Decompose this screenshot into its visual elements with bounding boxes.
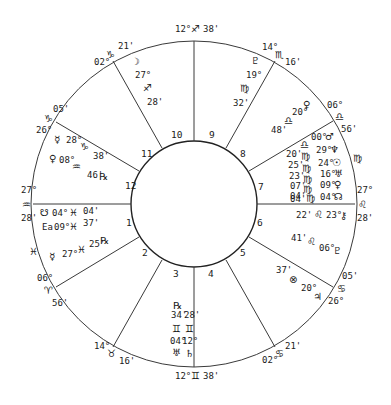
pluto-placement-h6: 41' ♌ 06° ♇: [291, 233, 342, 256]
intercepted-pisces-icon: ♓: [29, 246, 38, 257]
inner-circle: [131, 141, 257, 267]
cusp5-sign-icon: ♋: [275, 348, 284, 359]
pluto-icon: ♇: [333, 245, 342, 256]
dsc-sign-icon: ♌: [358, 199, 367, 210]
house-number-10: 10: [171, 129, 183, 140]
svg-text:19°: 19°: [246, 70, 262, 80]
svg-text:09°: 09°: [54, 222, 70, 232]
mc-minute: 38': [203, 24, 219, 34]
cusp5-line: [226, 260, 275, 347]
retrograde-icon: ℞: [99, 171, 108, 182]
south-node-icon: ☋: [40, 207, 49, 218]
svg-text:20°: 20°: [292, 107, 308, 117]
sagittarius-icon: ♐: [143, 82, 152, 93]
asc-minute: 28': [21, 213, 37, 223]
venus-icon: ♀: [334, 179, 341, 190]
svg-text:04°: 04°: [52, 208, 68, 218]
house-number-4: 4: [208, 268, 214, 279]
svg-text:37': 37': [83, 218, 99, 228]
ic-degree: 12°: [175, 371, 191, 381]
asc-degree: 27°: [21, 185, 37, 195]
house-number-8: 8: [240, 148, 246, 159]
svg-text:27°: 27°: [135, 70, 151, 80]
pluto-icon: ♇: [251, 55, 260, 66]
house-number-1: 1: [126, 217, 132, 228]
cusp2-minute: 56': [52, 298, 68, 308]
retrograde-icon: ℞: [100, 235, 109, 246]
cusp12-sign-icon: ♑: [44, 113, 53, 124]
ic-sign-icon: ♊: [191, 370, 200, 381]
mercury-icon: ☿: [49, 251, 55, 262]
chiron-placement: 22' ♌ 23° ⚷: [296, 209, 347, 221]
mc-degree: 12°: [175, 24, 191, 34]
cusp5-minute: 21': [285, 341, 301, 351]
mercury-icon: ☿: [54, 134, 60, 145]
house-number-11: 11: [141, 148, 153, 159]
svg-text:27°: 27°: [62, 249, 78, 259]
svg-text:28': 28': [184, 310, 200, 320]
svg-text:20': 20': [286, 149, 302, 159]
uranus-icon: ♅: [172, 347, 181, 358]
house-number-12: 12: [125, 180, 136, 191]
cusp9-minute: 16': [285, 57, 301, 67]
cusp6-sign-icon: ♋: [337, 283, 346, 294]
moon-placement: ☽ 27° ♐ 28': [131, 56, 163, 107]
virgo-icon: ♍: [240, 83, 249, 94]
chiron-icon: ⚷: [340, 210, 347, 221]
gemini-icon: ♊: [185, 323, 194, 334]
house-number-5: 5: [240, 247, 246, 258]
intercepted-virgo-icon: ♍: [353, 153, 362, 164]
part-of-fortune-icon: ⊗: [289, 274, 297, 285]
ea-placement: Ea 09° ♓ 37': [42, 218, 99, 232]
south-node-placement: ☋ 04° ♓ 04': [40, 206, 99, 218]
venus-placement-h8: ♀ 20° ♎ 48': [271, 99, 310, 135]
house7-planet-stack: 00° ♂ ♎ 20' 29° ♆ ♍ 25' 24° ☉ ♍ 23' 16° …: [286, 131, 343, 204]
venus-icon: ♀: [49, 153, 56, 164]
cusp6-minute: 05': [342, 271, 358, 281]
pluto-placement-h9: ♇ 19° ♍ 32': [233, 55, 262, 108]
svg-text:12°: 12°: [182, 336, 198, 346]
ic-minute: 38': [203, 371, 219, 381]
moon-icon: ☽: [131, 56, 140, 67]
svg-text:41': 41': [291, 233, 307, 243]
house-number-9: 9: [209, 129, 215, 140]
cusp8-sign-icon: ♎: [335, 111, 344, 122]
svg-text:48': 48': [271, 125, 287, 135]
north-node-icon: ☊: [334, 191, 343, 202]
pisces-icon: ♓: [69, 207, 78, 218]
natal-chart-wheel: 1 2 3 4 5 6 7 8 9 10 11 12 12° ♐ 38' 12°…: [0, 0, 391, 405]
cusp2-sign-icon: ♈: [44, 285, 53, 296]
asc-sign-icon: ♒: [22, 199, 31, 210]
pisces-icon: ♓: [77, 244, 86, 255]
sun-icon: ☉: [332, 157, 341, 168]
asteroid-icon: Ea: [42, 222, 53, 232]
house-number-7: 7: [258, 181, 264, 192]
virgo-icon: ♍: [306, 193, 315, 204]
jupiter-icon: ♃: [313, 291, 322, 302]
svg-text:04': 04': [290, 194, 306, 204]
svg-text:38': 38': [93, 151, 109, 161]
saturn-icon: ♄: [185, 348, 194, 359]
house-number-2: 2: [142, 247, 148, 258]
svg-text:04': 04': [83, 206, 99, 216]
fortuna-placement: 37' ⊗ 20° ♃: [276, 265, 322, 302]
mars-icon: ♂: [325, 131, 334, 142]
cusp8-degree: 06°: [327, 100, 343, 110]
pisces-icon: ♓: [69, 221, 78, 232]
uranus-icon: ♅: [334, 168, 343, 179]
cusp11-minute: 21': [118, 41, 134, 51]
neptune-icon: ♆: [330, 144, 339, 155]
cusp12-degree: 26°: [36, 125, 52, 135]
svg-text:28': 28': [147, 97, 163, 107]
gemini-icon: ♊: [172, 323, 181, 334]
house-number-6: 6: [257, 217, 263, 228]
cusp8-minute: 56': [341, 124, 357, 134]
svg-text:32': 32': [233, 98, 249, 108]
cusp2-degree: 06°: [37, 273, 53, 283]
leo-icon: ♌: [314, 209, 323, 220]
cusp12-minute: 05': [53, 104, 69, 114]
svg-text:22': 22': [296, 210, 312, 220]
cusp6-degree: 26°: [328, 296, 344, 306]
aquarius-icon: ♒: [72, 161, 81, 172]
mercury-placement-h1: ☿ 27° ♓ 25' ℞: [49, 235, 109, 262]
